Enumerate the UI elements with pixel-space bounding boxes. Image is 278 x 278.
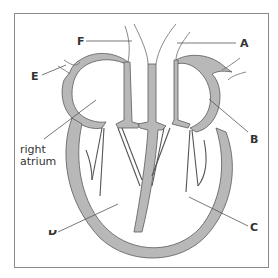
label-F: F bbox=[77, 36, 85, 47]
label-D-text: D bbox=[48, 230, 57, 237]
pulm-vein-line-1 bbox=[222, 58, 240, 70]
chordae-right-3 bbox=[86, 150, 92, 180]
label-B: B bbox=[250, 134, 258, 145]
label-right-atrium: right atrium bbox=[20, 144, 56, 168]
vessel-line-1 bbox=[125, 26, 129, 62]
chordae-left-2 bbox=[192, 130, 198, 186]
vessel-line-2 bbox=[134, 24, 148, 64]
septum bbox=[134, 64, 166, 232]
left-atrium-wall bbox=[176, 55, 232, 132]
chordae-right-1 bbox=[92, 128, 102, 180]
vessel-line-3 bbox=[156, 24, 176, 64]
right-vessel-column bbox=[116, 62, 140, 128]
chordae-right-2 bbox=[100, 128, 104, 196]
leader-E bbox=[42, 65, 66, 75]
label-C: C bbox=[250, 222, 258, 233]
label-D: D bbox=[48, 230, 57, 237]
label-right-atrium-line2: atrium bbox=[20, 156, 56, 168]
chordae-left-3 bbox=[198, 140, 206, 186]
chordae-mid-1 bbox=[118, 128, 140, 186]
chordae-left-1 bbox=[186, 130, 190, 192]
label-A: A bbox=[240, 38, 249, 49]
pulm-vein-line-2 bbox=[228, 72, 246, 80]
chordae-mid-2 bbox=[122, 128, 142, 180]
heart-diagram bbox=[0, 0, 278, 278]
label-E: E bbox=[31, 71, 39, 82]
left-atrium-inner-column bbox=[172, 60, 190, 128]
